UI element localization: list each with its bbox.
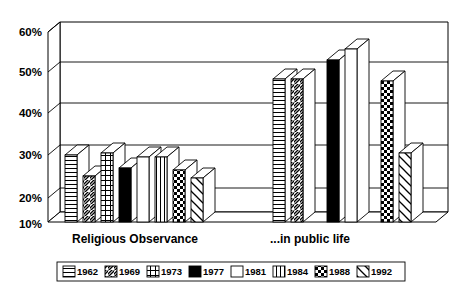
legend-swatch-1992 [357, 266, 369, 277]
legend-label-1962: 1962 [77, 266, 98, 277]
legend-label-1969: 1969 [119, 266, 140, 277]
legend-label-1973: 1973 [161, 266, 182, 277]
bar-1992-religious-observance [191, 168, 215, 222]
chart-container: 60% 50% 40% 30% 20% 10% [0, 0, 460, 294]
legend-swatch-1969 [105, 266, 117, 277]
legend-item-1973[interactable]: 1973 [147, 266, 182, 277]
bar-1969-in-public-life [291, 69, 315, 222]
legend-swatch-1984 [273, 266, 285, 277]
legend-item-1977[interactable]: 1977 [189, 266, 224, 277]
legend-item-1981[interactable]: 1981 [231, 266, 267, 277]
legend-swatch-1981 [231, 266, 243, 277]
legend-swatch-1973 [147, 266, 159, 277]
y-tick-60: 60% [19, 26, 42, 38]
legend-label-1984: 1984 [287, 266, 309, 277]
legend-item-1988[interactable]: 1988 [315, 266, 350, 277]
legend: 1962 1969 1973 1977 1981 [57, 262, 405, 281]
y-tick-40: 40% [19, 107, 42, 119]
legend-item-1992[interactable]: 1992 [357, 266, 392, 277]
y-tick-50: 50% [19, 66, 42, 78]
y-tick-30: 30% [19, 149, 42, 161]
legend-label-1988: 1988 [329, 266, 350, 277]
bar-1992-in-public-life [399, 143, 423, 222]
legend-swatch-1988 [315, 266, 327, 277]
legend-item-1969[interactable]: 1969 [105, 266, 140, 277]
bar-chart: 60% 50% 40% 30% 20% 10% [0, 0, 460, 294]
legend-item-1984[interactable]: 1984 [273, 266, 309, 277]
legend-label-1977: 1977 [203, 266, 224, 277]
y-tick-20: 20% [19, 192, 42, 204]
y-axis-labels: 60% 50% 40% 30% 20% 10% [19, 26, 42, 230]
legend-swatch-1977 [189, 266, 201, 277]
legend-item-1962[interactable]: 1962 [63, 266, 98, 277]
legend-label-1992: 1992 [371, 266, 392, 277]
bar-1981-in-public-life [345, 39, 369, 222]
legend-swatch-1962 [63, 266, 75, 277]
category-label-in-public-life: ...in public life [270, 232, 350, 246]
category-labels: Religious Observance ...in public life [72, 232, 350, 246]
category-label-religious-observance: Religious Observance [72, 232, 198, 246]
legend-label-1981: 1981 [245, 266, 267, 277]
y-tick-10: 10% [19, 218, 42, 230]
